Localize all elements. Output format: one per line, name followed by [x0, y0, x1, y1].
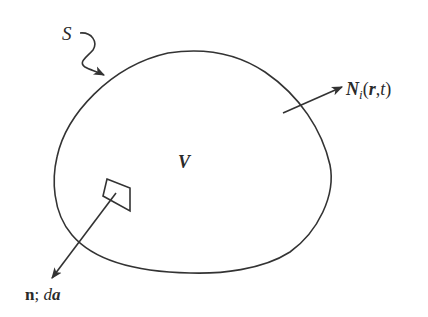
flux-label: Ni(r,t): [345, 79, 391, 102]
surface-label: S: [62, 23, 72, 44]
flux-arrow: [283, 87, 342, 113]
area-a: a: [52, 285, 61, 304]
surface-boundary: [54, 51, 331, 273]
normal-area-label: n; da: [25, 285, 61, 304]
control-volume-diagram: S V Ni(r,t) n; da: [0, 0, 428, 317]
volume-label: V: [178, 152, 192, 172]
flux-close-paren: ): [385, 79, 391, 100]
surface-pointer-arrow: [80, 33, 104, 75]
normal-arrow: [52, 193, 116, 278]
normal-separator: ;: [34, 285, 43, 304]
flux-symbol: N: [345, 79, 360, 99]
